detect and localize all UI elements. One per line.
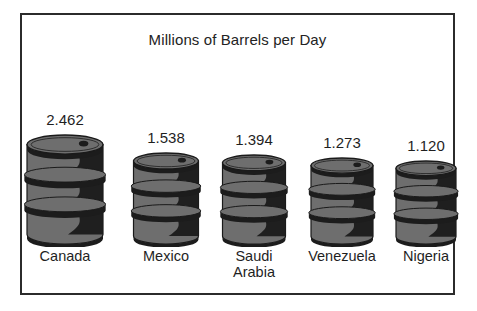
oil-barrel-icon [131, 151, 202, 247]
bar-value-label: 1.273 [323, 134, 361, 151]
bar-value-label: 1.120 [407, 137, 445, 154]
barrel-group[interactable]: 1.538 Mexico [118, 15, 214, 297]
barrel-pictogram[interactable] [24, 133, 106, 247]
oil-barrel-icon [308, 156, 376, 247]
barrel-pictogram[interactable] [131, 151, 202, 247]
bar-value-label: 1.394 [235, 131, 273, 148]
bar-value-label: 2.462 [46, 111, 84, 128]
category-label: Saudi Arabia [233, 248, 275, 280]
plot-area: 2.462 Canada1.538 [22, 15, 453, 293]
barrel-pictogram[interactable] [393, 159, 459, 247]
category-label: Nigeria [403, 248, 449, 264]
barrel-group[interactable]: 1.120 Nigeria [378, 15, 474, 297]
barrel-group[interactable]: 2.462 Canada [17, 15, 113, 297]
category-label: Canada [40, 248, 91, 264]
category-label: Mexico [143, 248, 189, 264]
oil-barrel-icon [393, 159, 459, 247]
bung-hole-icon [79, 141, 88, 147]
bar-value-label: 1.538 [147, 129, 185, 146]
barrel-group[interactable]: 1.273 Venezuela [294, 15, 390, 297]
oil-barrel-icon [24, 133, 106, 247]
bung-hole-icon [178, 158, 186, 163]
category-label: Venezuela [308, 248, 376, 264]
bung-hole-icon [266, 160, 274, 165]
barrel-group[interactable]: 1.394 Saudi Arabia [206, 15, 302, 297]
chart-frame: Millions of Barrels per Day 2.462 Canada… [20, 13, 455, 295]
barrel-pictogram[interactable] [308, 156, 376, 247]
bung-hole-icon [353, 163, 361, 168]
oil-barrel-icon [220, 153, 289, 247]
barrel-pictogram[interactable] [220, 153, 289, 247]
bung-hole-icon [437, 165, 444, 169]
